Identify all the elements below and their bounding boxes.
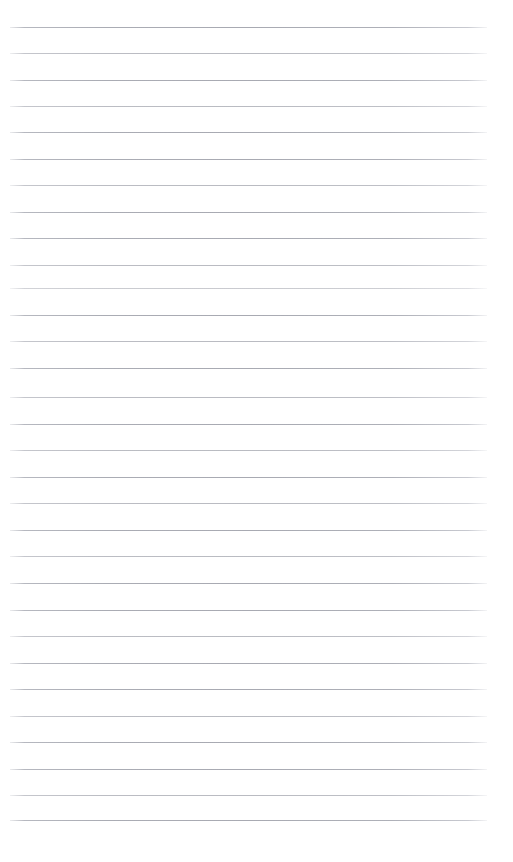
ruled-lines-layer (0, 0, 513, 862)
rule-line (10, 53, 487, 54)
rule-line (10, 315, 487, 316)
rule-line (10, 80, 487, 81)
rule-line (10, 424, 487, 425)
rule-line (10, 820, 487, 821)
lined-paper-page (0, 0, 513, 862)
rule-line (10, 530, 487, 531)
rule-line (10, 503, 487, 504)
rule-line (10, 610, 487, 611)
rule-line (10, 238, 487, 239)
rule-line (10, 663, 487, 664)
rule-line (10, 769, 487, 770)
rule-line (10, 477, 487, 478)
rule-line (10, 27, 487, 28)
rule-line (10, 689, 487, 690)
rule-line (10, 185, 487, 186)
rule-line (10, 450, 487, 451)
rule-line (10, 583, 487, 584)
rule-line (10, 265, 487, 266)
rule-line (10, 341, 487, 342)
rule-line (10, 368, 487, 369)
rule-line (10, 716, 487, 717)
rule-line (10, 636, 487, 637)
rule-line (10, 742, 487, 743)
rule-line (10, 159, 487, 160)
rule-line (10, 397, 487, 398)
rule-line (10, 106, 487, 107)
rule-line (10, 212, 487, 213)
rule-line (10, 132, 487, 133)
rule-line (10, 795, 487, 796)
rule-line (10, 556, 487, 557)
rule-line (10, 288, 487, 289)
